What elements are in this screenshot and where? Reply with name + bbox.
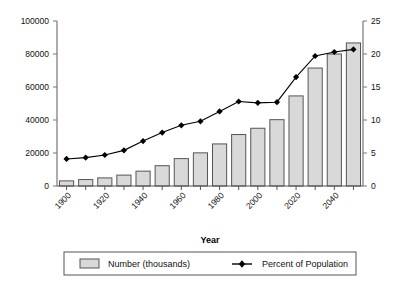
y-axis-right-tick-label: 15 [371, 82, 381, 92]
legend-bar-swatch-icon [80, 259, 99, 268]
bar [174, 159, 188, 186]
bar [117, 175, 131, 186]
y-axis-left-tick-label: 80000 [25, 49, 49, 59]
legend-label-number-thousands: Number (thousands) [108, 259, 190, 269]
bar [59, 181, 73, 186]
y-axis-left-tick-label: 60000 [25, 82, 49, 92]
legend-label-percent-of-population: Percent of Population [262, 259, 348, 269]
bar [289, 96, 303, 186]
bar [136, 171, 150, 186]
bar [79, 180, 93, 186]
chart-legend: Number (thousands) Percent of Population [64, 252, 356, 275]
y-axis-right-tick-label: 10 [371, 115, 381, 125]
bar [270, 120, 284, 186]
chart-figure: 020000400006000080000100000 0510152025 1… [0, 0, 419, 292]
y-axis-left-tick-label: 0 [44, 181, 49, 191]
chart-canvas: 020000400006000080000100000 0510152025 1… [0, 0, 419, 292]
bar [327, 54, 341, 186]
y-axis-left-tick-label: 40000 [25, 115, 49, 125]
bar [308, 68, 322, 186]
x-axis-title: Year [200, 235, 220, 245]
y-axis-right-tick-label: 0 [371, 181, 376, 191]
bar [98, 178, 112, 186]
bar [232, 135, 246, 186]
y-axis-left-tick-label: 20000 [25, 148, 49, 158]
bar [346, 43, 360, 186]
y-axis-right-tick-label: 25 [371, 16, 381, 26]
y-axis-right-tick-label: 5 [371, 148, 376, 158]
bar [251, 128, 265, 186]
y-axis-left-tick-label: 100000 [21, 16, 50, 26]
bar [212, 144, 226, 186]
bar [193, 153, 207, 186]
bar [155, 166, 169, 186]
y-axis-right-tick-label: 20 [371, 49, 381, 59]
